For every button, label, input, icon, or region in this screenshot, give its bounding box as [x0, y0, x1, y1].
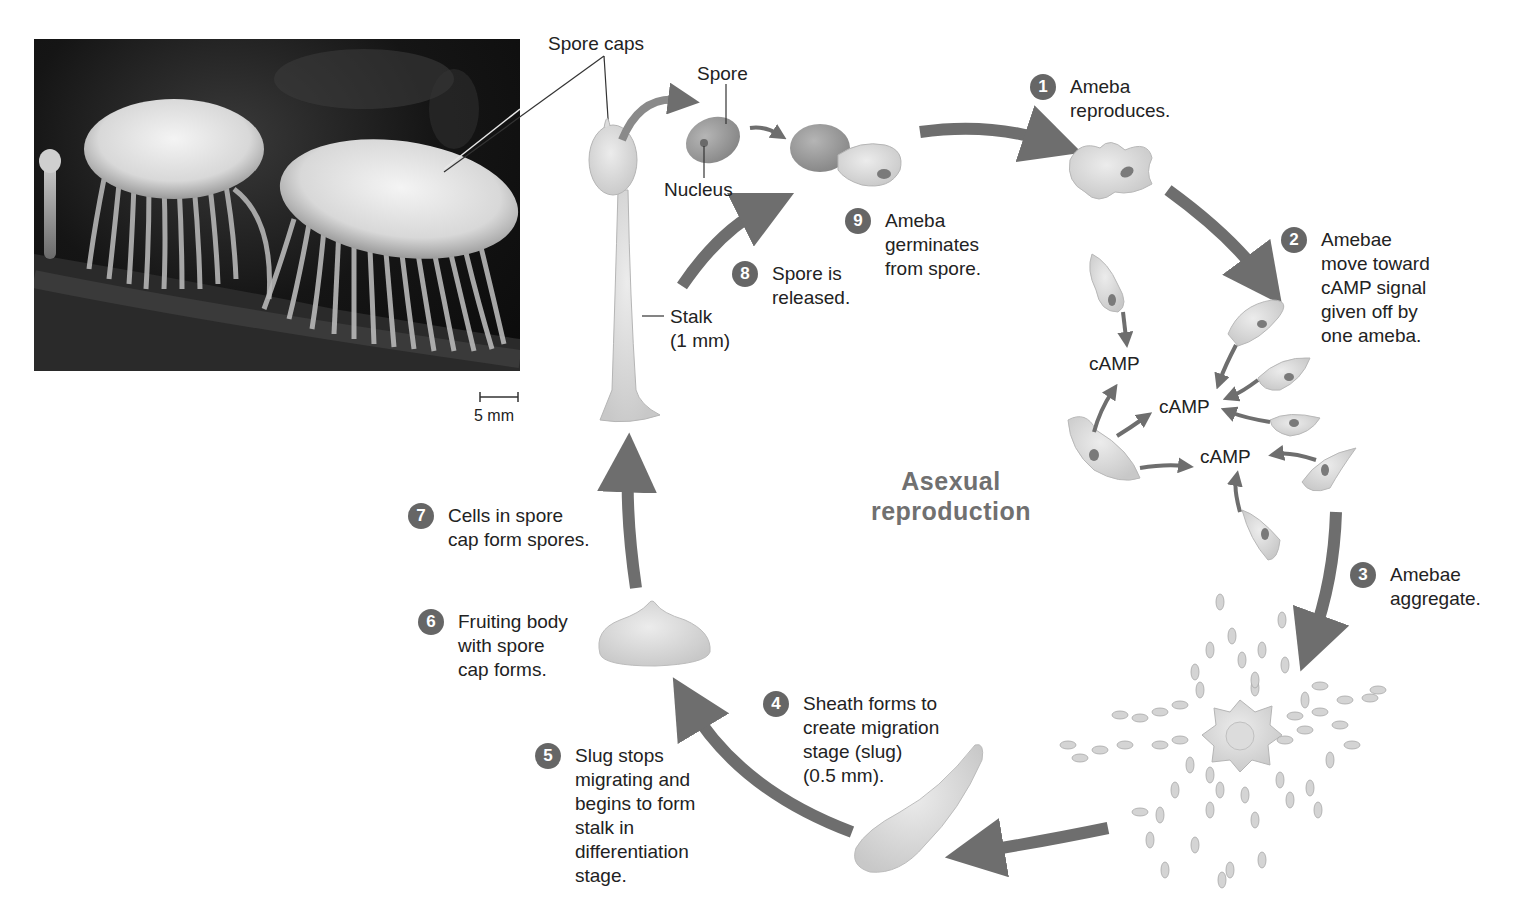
label-stalk: Stalk (1 mm): [670, 305, 730, 353]
step-text: Ameba germinates from spore.: [885, 209, 981, 281]
step-6: 6 Fruiting body with spore cap forms.: [418, 610, 568, 682]
spore-caps-callout: [444, 56, 610, 172]
step-text: Spore is released.: [772, 262, 850, 310]
cycle-artwork: [0, 0, 1521, 922]
camp-label-3: cAMP: [1200, 446, 1251, 468]
step-badge: 1: [1030, 74, 1056, 100]
step-badge: 3: [1350, 562, 1376, 588]
arrow-6-to-stalk-icon: [628, 466, 636, 588]
release-arrow-icon: [622, 100, 680, 141]
step-text: Amebae aggregate.: [1390, 563, 1481, 611]
step-text: Fruiting body with spore cap forms.: [458, 610, 568, 682]
label-spore: Spore: [697, 62, 748, 86]
spore-cell: [678, 108, 747, 172]
ameba-cell: [1069, 142, 1152, 199]
fruiting-body-stalk: [589, 118, 660, 421]
label-spore-caps: Spore caps: [548, 32, 644, 56]
step-badge: 8: [732, 261, 758, 287]
step-badge: 7: [408, 503, 434, 529]
step-badge: 4: [763, 691, 789, 717]
step-1: 1 Ameba reproduces.: [1030, 75, 1170, 123]
life-cycle-diagram: 5 mm: [0, 0, 1521, 922]
step-3: 3 Amebae aggregate.: [1350, 563, 1481, 611]
arrow-9-to-1-icon: [920, 129, 1050, 142]
arrow-3-to-4-icon: [978, 828, 1108, 852]
step-text: Ameba reproduces.: [1070, 75, 1170, 123]
step-2: 2 Amebae move toward cAMP signal given o…: [1281, 228, 1430, 348]
aggregation-center: [1060, 594, 1386, 888]
step-7: 7 Cells in spore cap form spores.: [408, 504, 590, 552]
diagram-title: Asexual reproduction: [846, 466, 1056, 526]
step-text: Sheath forms to create migration stage (…: [803, 692, 939, 788]
arrow-1-to-2-icon: [1168, 190, 1262, 278]
camp-label-1: cAMP: [1089, 353, 1140, 375]
step-5: 5 Slug stops migrating and begins to for…: [535, 744, 695, 888]
arrow-2-to-3-icon: [1312, 512, 1336, 640]
fruiting-body-mound: [599, 601, 710, 666]
step-text: Amebae move toward cAMP signal given off…: [1321, 228, 1430, 348]
step-text: Cells in spore cap form spores.: [448, 504, 590, 552]
label-nucleus: Nucleus: [664, 178, 733, 202]
step-badge: 6: [418, 609, 444, 635]
step-8: 8 Spore is released.: [732, 262, 850, 310]
camp-label-2: cAMP: [1159, 396, 1210, 418]
step-badge: 5: [535, 743, 561, 769]
step-9: 9 Ameba germinates from spore.: [845, 209, 981, 281]
step-badge: 9: [845, 208, 871, 234]
step-badge: 2: [1281, 227, 1307, 253]
step-text: Slug stops migrating and begins to form …: [575, 744, 695, 888]
step-4: 4 Sheath forms to create migration stage…: [763, 692, 939, 788]
